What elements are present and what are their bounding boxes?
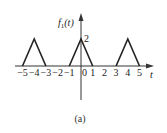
x-tick-label: −4 <box>29 67 40 78</box>
x-tick-label: 0 <box>82 67 87 78</box>
x-tick-label: −1 <box>64 67 75 78</box>
x-axis-label: t <box>150 69 153 80</box>
x-axis-arrow-icon <box>146 64 154 69</box>
triangle-right <box>116 39 139 66</box>
y-axis-label: f1(t) <box>58 17 74 30</box>
y-axis-arrow-icon <box>79 13 84 21</box>
x-tick-label: 5 <box>137 67 142 78</box>
x-tick-label: 2 <box>102 67 107 78</box>
figure-caption: (a) <box>74 113 85 125</box>
x-tick-label: 1 <box>90 67 95 78</box>
triangle-left <box>23 39 46 66</box>
x-tick-label: −5 <box>17 67 28 78</box>
x-tick-label: 3 <box>114 67 119 78</box>
signal-diagram: −5−4−3−2−1012345 2 f1(t) t (a) <box>0 0 167 133</box>
x-tick-label: −2 <box>52 67 63 78</box>
y-axis <box>79 13 84 100</box>
x-tick-label: 4 <box>125 67 130 78</box>
peak-value-label: 2 <box>84 33 89 44</box>
x-tick-label: −3 <box>41 67 52 78</box>
x-tick-labels: −5−4−3−2−1012345 <box>17 67 142 78</box>
